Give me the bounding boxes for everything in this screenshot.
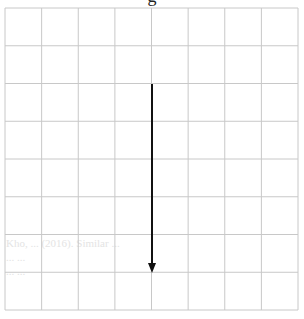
down-arrow — [148, 84, 156, 273]
grid-diagram — [0, 0, 304, 319]
